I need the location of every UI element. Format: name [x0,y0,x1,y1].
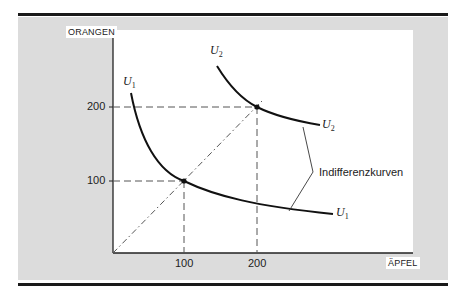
point-100-100 [181,178,186,183]
annotation-leader [289,127,313,211]
x-axis-title: ÄPFEL [386,257,420,269]
indifference-curves-annotation: Indifferenzkurven [319,166,403,178]
expansion-path [113,101,262,253]
u1-end-label: U1 [336,205,349,221]
y-tick-200: 200 [87,100,105,112]
x-tick-100: 100 [175,257,193,269]
indifference-curve-u2 [217,66,320,125]
u2-top-label: U2 [210,43,223,59]
point-200-200 [254,104,259,109]
u2-end-label: U2 [322,117,335,133]
y-axis-title: ORANGEN [66,26,117,38]
x-tick-200: 200 [248,257,266,269]
u1-top-label: U1 [123,74,136,90]
indifference-curve-diagram [0,0,464,299]
bottom-rule [18,283,448,286]
indifference-curve-u1 [131,93,333,214]
y-tick-100: 100 [87,174,105,186]
